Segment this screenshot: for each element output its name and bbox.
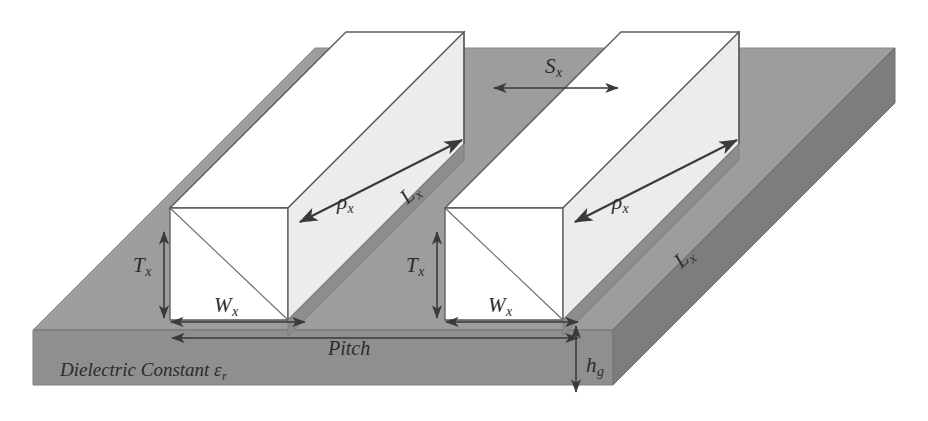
substrate-height-label: hg bbox=[586, 355, 604, 379]
pitch-label: Pitch bbox=[328, 338, 370, 358]
dielectric-constant-label: Dielectric Constant εr bbox=[60, 360, 227, 383]
schematic-drawing bbox=[0, 0, 928, 421]
resistivity-left-label: ρx bbox=[337, 192, 354, 216]
width-right-label: Wx bbox=[488, 295, 512, 319]
figure-container: Sx Lx Lx ρx ρx Tx Tx Wx Wx Pitch hg Diel… bbox=[0, 0, 928, 421]
thickness-right-label: Tx bbox=[406, 255, 424, 279]
width-left-label: Wx bbox=[214, 295, 238, 319]
thickness-left-label: Tx bbox=[133, 255, 151, 279]
spacing-label: Sx bbox=[545, 56, 562, 80]
resistivity-right-label: ρx bbox=[612, 192, 629, 216]
